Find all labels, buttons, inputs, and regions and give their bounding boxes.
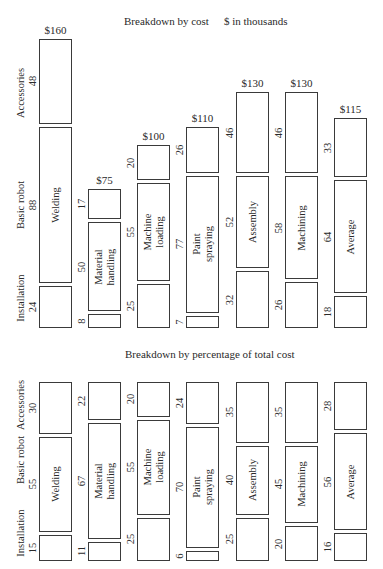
category-label: Materialhandling — [92, 463, 116, 500]
value-accessories: 48 — [27, 76, 39, 87]
value-accessories: 24 — [174, 398, 186, 409]
value-installation: 25 — [125, 534, 137, 545]
category-label: Paintspraying — [190, 226, 214, 262]
chart-title-percentage: Breakdown by percentage of total cost — [125, 348, 295, 360]
value-accessories: 46 — [224, 127, 236, 138]
installation-segment — [236, 271, 269, 328]
category-label: Welding — [49, 467, 61, 502]
installation-segment — [186, 551, 219, 561]
column-total: $100 — [143, 130, 165, 142]
installation-segment — [285, 526, 318, 561]
legend-accessories: Accessories — [15, 68, 27, 118]
legend-basic-robot: Basic robot — [15, 436, 27, 484]
accessories-segment — [137, 145, 170, 180]
accessories-segment — [88, 189, 121, 219]
value-basic-robot: 64 — [322, 231, 334, 242]
value-basic-robot: 45 — [273, 479, 285, 490]
value-basic-robot: 88 — [27, 199, 39, 210]
value-installation: 32 — [224, 294, 236, 305]
value-installation: 18 — [322, 307, 334, 318]
value-accessories: 46 — [273, 127, 285, 138]
installation-segment — [39, 286, 72, 328]
column-total: $115 — [340, 103, 362, 115]
value-basic-robot: 52 — [224, 217, 236, 228]
legend-basic-robot: Basic robot — [15, 181, 27, 229]
value-installation: 16 — [322, 542, 334, 553]
value-installation: 25 — [224, 534, 236, 545]
value-basic-robot: 40 — [224, 475, 236, 486]
category-label: Average — [344, 464, 356, 499]
installation-segment — [88, 314, 121, 328]
column-total: $75 — [96, 174, 113, 186]
accessories-segment — [285, 92, 318, 173]
category-label: Assembly — [246, 459, 258, 501]
value-accessories: 22 — [76, 396, 88, 407]
accessories-segment — [236, 382, 269, 443]
column-total: $110 — [192, 112, 214, 124]
installation-segment — [137, 518, 170, 561]
installation-segment — [334, 533, 367, 561]
installation-segment — [88, 542, 121, 561]
installation-segment — [39, 535, 72, 561]
accessories-segment — [236, 92, 269, 173]
value-installation: 25 — [125, 301, 137, 312]
value-accessories: 35 — [224, 407, 236, 418]
value-basic-robot: 70 — [174, 482, 186, 493]
value-accessories: 35 — [273, 407, 285, 418]
accessories-segment — [334, 382, 367, 430]
value-installation: 6 — [174, 553, 186, 558]
accessories-segment — [285, 382, 318, 443]
accessories-segment — [39, 382, 72, 434]
accessories-segment — [186, 127, 219, 173]
value-installation: 7 — [174, 319, 186, 324]
accessories-segment — [334, 118, 367, 176]
value-basic-robot: 77 — [174, 239, 186, 250]
value-basic-robot: 50 — [76, 261, 88, 272]
installation-segment — [285, 282, 318, 328]
accessories-segment — [39, 39, 72, 124]
accessories-segment — [137, 382, 170, 417]
installation-segment — [186, 316, 219, 328]
category-label: Materialhandling — [92, 248, 116, 285]
column-total: $130 — [242, 77, 264, 89]
value-installation: 26 — [273, 300, 285, 311]
category-label: Paintspraying — [190, 469, 214, 505]
value-accessories: 33 — [322, 142, 334, 153]
category-label: Assembly — [246, 201, 258, 243]
value-accessories: 26 — [174, 145, 186, 156]
value-accessories: 30 — [27, 403, 39, 414]
accessories-segment — [186, 382, 219, 424]
category-label: Machining — [295, 205, 307, 251]
legend-accessories: Accessories — [15, 380, 27, 430]
value-installation: 15 — [27, 543, 39, 554]
column-total: $130 — [291, 77, 313, 89]
value-accessories: 28 — [322, 401, 334, 412]
value-installation: 24 — [27, 302, 39, 313]
category-label: Welding — [49, 187, 61, 222]
installation-segment — [334, 296, 367, 328]
value-basic-robot: 58 — [273, 222, 285, 233]
value-basic-robot: 55 — [125, 227, 137, 238]
legend-installation: Installation — [15, 509, 27, 556]
installation-segment — [137, 284, 170, 328]
column-total: $160 — [45, 24, 67, 36]
legend-installation: Installation — [15, 274, 27, 321]
category-label: Machineloading — [141, 214, 165, 251]
category-label: Average — [344, 219, 356, 254]
value-accessories: 20 — [125, 157, 137, 168]
accessories-segment — [88, 382, 121, 420]
value-basic-robot: 67 — [76, 476, 88, 487]
chart-title-cost: Breakdown by cost — [124, 15, 209, 27]
value-installation: 20 — [273, 538, 285, 549]
chart-subtitle-units: $ in thousands — [224, 15, 288, 27]
value-basic-robot: 55 — [27, 479, 39, 490]
value-accessories: 17 — [76, 199, 88, 210]
value-installation: 8 — [76, 318, 88, 323]
value-accessories: 20 — [125, 394, 137, 405]
value-basic-robot: 55 — [125, 462, 137, 473]
value-basic-robot: 56 — [322, 477, 334, 488]
category-label: Machineloading — [141, 449, 165, 486]
installation-segment — [236, 518, 269, 561]
category-label: Machining — [295, 462, 307, 508]
value-installation: 11 — [76, 546, 88, 556]
